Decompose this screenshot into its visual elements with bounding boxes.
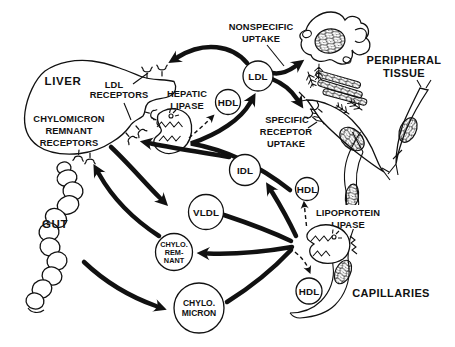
capillaries-label: CAPILLARIES: [352, 287, 430, 299]
hepatic-lipase-label-line1: HEPATIC: [167, 89, 207, 99]
particle-hdl-bottom: HDL: [296, 278, 322, 304]
particle-hdl-bottom-label: HDL: [299, 286, 319, 297]
ldl-receptor-icons-top: [142, 65, 167, 78]
particle-hdl-top-label: HDL: [218, 97, 238, 108]
particle-chylo-remnant-label-line3: NANT: [164, 256, 185, 265]
specific-uptake-label-line3: UPTAKE: [267, 139, 305, 149]
nonspecific-uptake-label-line1: NONSPECIFIC: [229, 22, 294, 32]
ldl-receptors-label-line2: RECEPTORS: [90, 90, 149, 100]
dashed-arrow-lpl-to-hdl-mid: [305, 207, 307, 226]
specific-uptake-label-line2: RECEPTOR: [260, 127, 312, 137]
diagram-canvas: LIVER LDL RECEPTORS CHYLOMICRON REMNANT …: [0, 0, 455, 347]
lipoprotein-lipase-label-line1: LIPOPROTEIN: [316, 208, 380, 218]
peripheral-tissue-label-line2: TISSUE: [383, 67, 425, 79]
particle-chylomicron-label-line2: MICRON: [182, 308, 216, 318]
hepatic-lipase-label-line2: LIPASE: [170, 101, 204, 111]
chylo-remnant-receptors-label-line2: REMNANT: [45, 126, 92, 136]
particle-chylomicron: CHYLO. MICRON: [174, 283, 224, 333]
nonspecific-uptake-label-line2: UPTAKE: [242, 34, 280, 44]
particle-hdl-mid-label: HDL: [297, 184, 317, 195]
arrow-vldl-to-lpl: [224, 215, 291, 241]
collagen-fiber-strips: [315, 70, 367, 106]
particle-idl-label: IDL: [237, 165, 253, 176]
arrow-gut-to-chylomicron: [84, 262, 156, 306]
particle-idl: IDL: [230, 155, 261, 186]
liver-region: LIVER LDL RECEPTORS CHYLOMICRON REMNANT …: [25, 60, 176, 163]
particle-ldl: LDL: [243, 61, 273, 91]
lpl-body: [307, 225, 350, 264]
particle-vldl: VLDL: [189, 195, 224, 230]
gut-region: GUT: [24, 161, 84, 313]
particle-hdl-top: HDL: [216, 90, 241, 115]
arrow-lpl-to-chylo-remnant: [208, 247, 292, 254]
capillary-zigzag-detail: [350, 236, 357, 254]
arrow-chylo-remnant-to-liver: [99, 174, 159, 236]
peripheral-tissue-label-line1: PERIPHERAL: [367, 54, 442, 66]
specific-uptake-label-line1: SPECIFIC: [265, 115, 309, 125]
arrow-ldl-to-liver: [178, 47, 247, 63]
particle-ldl-label: LDL: [248, 71, 267, 82]
arrow-ldl-to-specific-uptake: [272, 79, 297, 99]
arrow-liver-to-vldl: [111, 147, 160, 198]
particle-vldl-label: VLDL: [193, 207, 219, 218]
peripheral-tissue-region: PERIPHERAL TISSUE: [299, 12, 441, 180]
gut-label: GUT: [42, 218, 68, 230]
arrow-chylomicron-to-lpl: [227, 250, 291, 302]
endothelial-cell-nucleus-top: [344, 183, 360, 209]
dashed-arrow-lpl-to-hdl-bottom: [295, 252, 308, 268]
chylo-remnant-receptors-label-line3: RECEPTORS: [40, 138, 99, 148]
particle-chylomicron-label-line1: CHYLO.: [183, 298, 215, 308]
particle-hdl-mid: HDL: [296, 178, 319, 201]
arrow-lpl-to-idl: [272, 192, 296, 236]
lipoprotein-lipase-enzyme: [307, 225, 350, 264]
lipoprotein-metabolism-figure: LIVER LDL RECEPTORS CHYLOMICRON REMNANT …: [0, 0, 455, 347]
spindle-cell: [299, 92, 390, 180]
nonspecific-uptake-pointer-line: [267, 45, 284, 66]
arrow-ldl-to-nonspecific-uptake: [272, 67, 295, 74]
liver-label: LIVER: [45, 75, 82, 87]
ldl-receptors-label-line1: LDL: [105, 80, 124, 90]
gut-intestine-drawing: [24, 161, 84, 313]
spindle-cell-2: [388, 80, 431, 175]
particle-chylo-remnant: CHYLO. REM- NANT: [156, 234, 193, 271]
chylo-remnant-receptors-label-line1: CHYLOMICRON: [33, 114, 105, 124]
